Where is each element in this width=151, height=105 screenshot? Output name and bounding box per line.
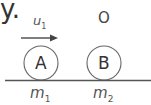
- mass-subscript: 1: [45, 94, 51, 104]
- mass-label-m1: m1: [30, 84, 50, 104]
- mass-subscript: 2: [108, 94, 114, 104]
- mass-symbol: m: [30, 84, 45, 102]
- collision-diagram: [0, 0, 151, 105]
- ball-a-label: A: [35, 53, 47, 73]
- mass-symbol: m: [93, 84, 108, 102]
- ball-b-label: B: [98, 53, 110, 73]
- velocity-arrow-head: [50, 35, 58, 42]
- mass-label-m2: m2: [93, 84, 113, 104]
